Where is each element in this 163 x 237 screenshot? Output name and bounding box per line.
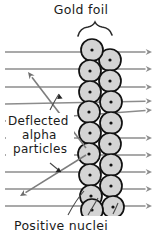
atom-nucleus-dot bbox=[108, 58, 111, 61]
alpha-beam-arrowhead bbox=[146, 98, 152, 104]
deflected-label-line-1: Deflected bbox=[8, 114, 69, 128]
alpha-beam-arrowhead bbox=[146, 66, 152, 72]
atom-nucleus-dot bbox=[87, 152, 90, 155]
alpha-beam-arrowhead bbox=[145, 108, 152, 114]
rutherford-gold-foil-diagram: Gold foil Deflected alpha particles Posi… bbox=[0, 0, 163, 237]
alpha-beam-arrowhead bbox=[146, 152, 152, 158]
atom-nucleus-dot bbox=[88, 69, 91, 72]
atom-nucleus-dot bbox=[88, 173, 91, 176]
gold-atom bbox=[78, 143, 100, 165]
brace-icon bbox=[78, 22, 112, 36]
diagram-canvas: Gold foil Deflected alpha particles Posi… bbox=[0, 0, 163, 237]
alpha-beam-arrowhead bbox=[146, 186, 152, 192]
gold-atom bbox=[79, 122, 101, 144]
gold-atom bbox=[79, 164, 101, 186]
atom-nucleus-dot bbox=[109, 184, 112, 187]
bottom-label-positive-nuclei: Positive nuclei bbox=[14, 218, 108, 233]
gold-foil-brace bbox=[78, 22, 112, 36]
gold-atom bbox=[78, 101, 100, 123]
gold-foil-atom-lattice bbox=[78, 39, 124, 221]
atom-nucleus-dot bbox=[89, 194, 92, 197]
gold-atom bbox=[102, 196, 124, 218]
title-label-gold-foil: Gold foil bbox=[54, 2, 108, 17]
alpha-beam-arrowhead bbox=[146, 203, 152, 209]
atom-nucleus-dot bbox=[88, 131, 91, 134]
alpha-beam-arrowhead bbox=[146, 135, 152, 141]
atom-nucleus-dot bbox=[111, 205, 114, 208]
gold-atom bbox=[79, 81, 101, 103]
atom-nucleus-dot bbox=[87, 110, 90, 113]
alpha-beam-line bbox=[5, 101, 146, 104]
gold-atom bbox=[79, 60, 101, 82]
alpha-beam-arrowhead bbox=[146, 169, 152, 175]
alpha-beam-arrowhead bbox=[146, 84, 152, 90]
gold-atom bbox=[100, 112, 122, 134]
atom-nucleus-dot bbox=[90, 48, 93, 51]
atom-nucleus-dot bbox=[108, 79, 111, 82]
gold-atom bbox=[81, 39, 103, 61]
deflected-label-line-3: particles bbox=[13, 142, 67, 156]
deflected-ray-line bbox=[26, 155, 86, 193]
alpha-beam-arrowhead bbox=[146, 49, 152, 55]
gold-atom bbox=[99, 133, 121, 155]
atom-nucleus-dot bbox=[109, 100, 112, 103]
gold-atom bbox=[100, 91, 122, 113]
atom-nucleus-dot bbox=[109, 121, 112, 124]
atom-nucleus-dot bbox=[109, 163, 112, 166]
deflected-label-line-2: alpha bbox=[22, 128, 57, 142]
atom-nucleus-dot bbox=[108, 142, 111, 145]
gold-atom bbox=[100, 154, 122, 176]
gold-atom bbox=[99, 70, 121, 92]
atom-nucleus-dot bbox=[88, 90, 91, 93]
gold-atom bbox=[100, 175, 122, 197]
deflected-alpha-particles-label: Deflected alpha particles bbox=[6, 113, 74, 156]
